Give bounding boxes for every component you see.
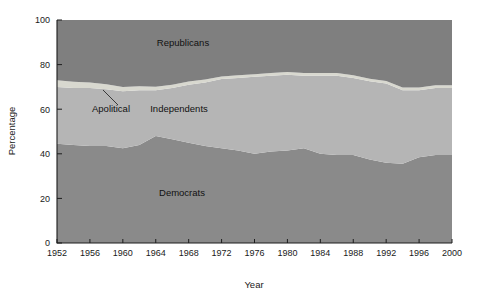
x-tick-label: 1996 — [409, 248, 429, 258]
chart-container: 1952195619601964196819721976198019841988… — [0, 0, 477, 298]
x-axis-title: Year — [244, 279, 263, 290]
x-tick-label: 1968 — [179, 248, 199, 258]
series-label-democrats: Democrats — [159, 187, 205, 198]
area-series-group — [57, 20, 452, 243]
x-tick-label: 1980 — [277, 248, 297, 258]
y-tick-label: 60 — [40, 105, 50, 115]
x-tick-label: 1960 — [113, 248, 133, 258]
x-tick-label: 1964 — [146, 248, 166, 258]
y-tick-label: 20 — [40, 194, 50, 204]
x-tick-label: 1992 — [376, 248, 396, 258]
y-tick-label: 0 — [45, 238, 50, 248]
y-tick-label: 40 — [40, 149, 50, 159]
x-tick-label: 1956 — [80, 248, 100, 258]
x-tick-label: 1952 — [47, 248, 67, 258]
y-tick-label: 100 — [35, 15, 50, 25]
series-label-independents: Independents — [150, 103, 208, 114]
series-label-republicans: Republicans — [157, 37, 210, 48]
x-tick-label: 1976 — [244, 248, 264, 258]
x-tick-label: 1988 — [343, 248, 363, 258]
x-tick-label: 1984 — [310, 248, 330, 258]
stacked-area-chart: 1952195619601964196819721976198019841988… — [0, 0, 477, 298]
series-label-apolitical: Apolitical — [92, 103, 130, 114]
x-tick-label: 2000 — [442, 248, 462, 258]
y-axis-title: Percentage — [6, 107, 17, 156]
y-tick-label: 80 — [40, 60, 50, 70]
x-tick-label: 1972 — [212, 248, 232, 258]
